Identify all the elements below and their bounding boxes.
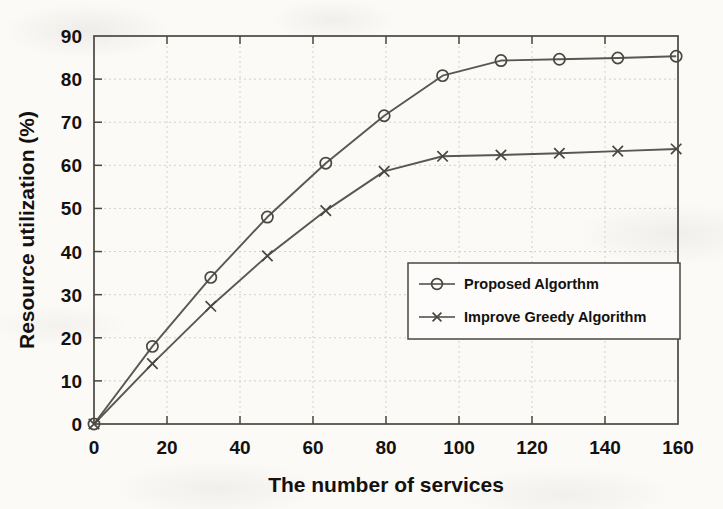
line-chart-svg: 0102030405060708090020406080100120140160… <box>0 0 723 509</box>
y-tick-label: 20 <box>61 328 82 349</box>
chart-figure: 0102030405060708090020406080100120140160… <box>0 0 723 509</box>
y-tick-label: 0 <box>71 414 82 435</box>
data-point-cross <box>147 358 157 368</box>
legend-label-greedy: Improve Greedy Algorithm <box>464 309 646 325</box>
x-tick-label: 160 <box>662 437 694 458</box>
x-tick-label: 80 <box>375 437 396 458</box>
x-tick-label: 20 <box>156 437 177 458</box>
y-tick-label: 50 <box>61 198 82 219</box>
data-point-cross <box>206 301 216 311</box>
data-series-layer <box>88 51 681 430</box>
x-tick-label: 140 <box>589 437 621 458</box>
data-point-cross <box>321 205 331 215</box>
legend-box <box>408 263 680 339</box>
legend: Proposed Algorthm Improve Greedy Algorit… <box>408 263 680 339</box>
legend-label-proposed: Proposed Algorthm <box>464 276 599 292</box>
x-tick-label: 0 <box>89 437 100 458</box>
y-tick-label: 30 <box>61 285 82 306</box>
series-polyline <box>94 56 676 424</box>
x-tick-label: 120 <box>516 437 548 458</box>
grid-layer <box>94 36 678 424</box>
y-tick-label: 70 <box>61 112 82 133</box>
y-tick-label: 60 <box>61 155 82 176</box>
data-point-cross <box>262 251 272 261</box>
y-tick-label: 90 <box>61 26 82 47</box>
y-tick-label: 10 <box>61 371 82 392</box>
y-tick-label: 80 <box>61 69 82 90</box>
x-tick-label: 60 <box>302 437 323 458</box>
tick-labels-layer: 0102030405060708090020406080100120140160 <box>61 26 694 458</box>
x-axis-title: The number of services <box>268 473 504 496</box>
tick-marks-layer <box>94 36 605 424</box>
x-tick-label: 40 <box>229 437 250 458</box>
y-axis-title: Resource utilization (%) <box>15 111 38 349</box>
y-tick-label: 40 <box>61 242 82 263</box>
plot-area-frame <box>94 36 678 424</box>
series-proposed <box>88 51 681 430</box>
x-tick-label: 100 <box>443 437 475 458</box>
